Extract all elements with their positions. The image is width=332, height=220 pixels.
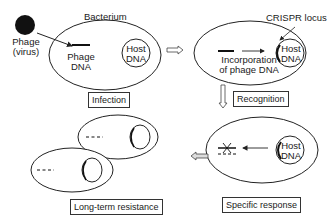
crispr-locus-label: CRISPR locus [266, 13, 327, 23]
flow-arrow-recognition-to-response [219, 85, 227, 108]
crispr-diagram-canvas [0, 0, 332, 220]
stage-box-specific-response: Specific response [222, 197, 301, 213]
stage-box-long-term-resistance: Long-term resistance [70, 199, 163, 215]
phage-label: Phage (virus) [6, 37, 46, 58]
flow-arrow-infection-to-recognition [167, 46, 183, 54]
flow-arrow-response-to-resistance [191, 152, 208, 160]
phage-dna-label: Phage DNA [62, 52, 100, 73]
incorporation-label: Incorporation of phage DNA [218, 55, 280, 76]
host-dna-label-infection: Host DNA [122, 44, 150, 65]
phage-label-line2: (virus) [6, 47, 46, 57]
bacterium-label: Bacterium [84, 12, 127, 22]
stage-box-recognition: Recognition [233, 91, 289, 107]
incorporation-label-line2: of phage DNA [218, 65, 280, 75]
host-dna-label-recognition: Host DNA [277, 44, 305, 65]
host-dna-label-line2: DNA [122, 54, 150, 64]
host-dna-label-line2: DNA [277, 151, 305, 161]
host-dna-label-response: Host DNA [277, 141, 305, 162]
stage-box-infection: Infection [88, 92, 130, 108]
host-dna-label-line2: DNA [277, 54, 305, 64]
phage-dna-label-line2: DNA [62, 62, 100, 72]
phage-particle-icon [15, 15, 35, 35]
